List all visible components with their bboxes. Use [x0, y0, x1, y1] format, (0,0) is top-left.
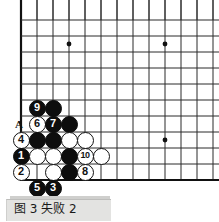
go-stone-black-move-7: 7 — [45, 116, 62, 133]
go-stone-black-move-5: 5 — [29, 180, 46, 197]
go-stone-move-number: 4 — [18, 134, 24, 145]
go-stone-move-number: 7 — [50, 118, 56, 129]
go-stone-white — [45, 164, 62, 181]
star-point — [163, 42, 168, 47]
go-stone-move-number: 3 — [50, 182, 56, 193]
go-stone-move-number: 5 — [34, 182, 40, 193]
go-stone-black — [61, 116, 78, 133]
go-stone-white — [29, 148, 46, 165]
go-stone-white-move-10: 10 — [77, 148, 94, 165]
board-point-label-a: A — [15, 119, 23, 130]
go-stone-white — [61, 132, 78, 149]
go-stone-white — [77, 132, 94, 149]
go-board-grid — [0, 0, 219, 198]
go-stone-move-number: 2 — [18, 166, 24, 177]
go-stone-white-move-6: 6 — [29, 116, 46, 133]
go-stone-black — [61, 148, 78, 165]
go-stone-move-number: 9 — [34, 102, 40, 113]
go-stone-black — [45, 100, 62, 117]
star-point — [67, 42, 72, 47]
go-stone-move-number: 1 — [18, 150, 24, 161]
go-stone-black — [61, 164, 78, 181]
go-stone-move-number: 8 — [82, 166, 88, 177]
go-stone-move-number: 10 — [80, 151, 89, 160]
go-stone-black — [45, 132, 62, 149]
go-stone-white-move-4: 4 — [13, 132, 30, 149]
star-point — [163, 138, 168, 143]
go-stone-move-number: 6 — [34, 118, 40, 129]
go-stone-black-move-3: 3 — [45, 180, 62, 197]
go-stone-white — [45, 148, 62, 165]
go-stone-white-move-8: 8 — [77, 164, 94, 181]
go-stone-white — [93, 148, 110, 165]
go-stone-black-move-1: 1 — [13, 148, 30, 165]
go-stone-black — [29, 132, 46, 149]
go-problem-figure: 96741102853 A 图 3 失败 2 — [0, 0, 219, 222]
go-stone-black-move-9: 9 — [29, 100, 46, 117]
go-board — [0, 0, 219, 198]
go-stone-white-move-2: 2 — [13, 164, 30, 181]
figure-caption: 图 3 失败 2 — [14, 202, 77, 217]
